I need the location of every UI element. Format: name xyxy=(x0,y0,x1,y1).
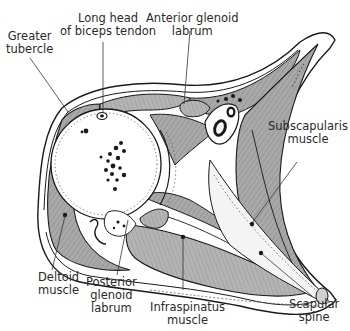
humeral-head xyxy=(51,109,161,219)
label-long-head-biceps-tendon: Long head of biceps tendon xyxy=(60,12,156,38)
label-greater-tubercle: Greater tubercle xyxy=(6,30,53,56)
label-scapular-spine: Scapular spine xyxy=(289,298,339,324)
label-subscapularis-muscle: Subscapularis muscle xyxy=(268,120,348,146)
shoulder-cross-section-diagram: Greater tubercle Long head of biceps ten… xyxy=(0,0,350,331)
label-posterior-glenoid-labrum: Posterior glenoid labrum xyxy=(86,276,137,315)
label-infraspinatus-muscle: Infraspinatus muscle xyxy=(150,301,225,327)
label-anterior-glenoid-labrum: Anterior glenoid labrum xyxy=(146,12,238,38)
label-deltoid-muscle: Deltoid muscle xyxy=(38,271,79,297)
